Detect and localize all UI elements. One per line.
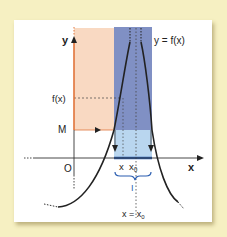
curve-label: y = f(x) [154, 35, 185, 46]
interval-brace [115, 172, 151, 180]
x-tick-label: x [119, 161, 124, 172]
m-level-label: M [58, 124, 66, 135]
peach-region [74, 28, 114, 130]
curve-left-dotted [44, 204, 58, 207]
limit-diagram: y x O y = f(x) f(x) M x x0 I x = x0 [0, 0, 227, 237]
fx-level-label: f(x) [52, 93, 66, 104]
x-axis-label: x [188, 161, 195, 173]
origin-label: O [64, 163, 72, 174]
interval-label: I [131, 183, 134, 193]
curve-right-dotted [178, 202, 184, 209]
y-axis-label: y [62, 34, 69, 46]
blue-region-lower [114, 130, 152, 158]
asymptote-label: x = x0 [122, 209, 145, 220]
x-axis-arrow-icon [197, 155, 204, 161]
x0-tick-label: x0 [129, 161, 138, 173]
